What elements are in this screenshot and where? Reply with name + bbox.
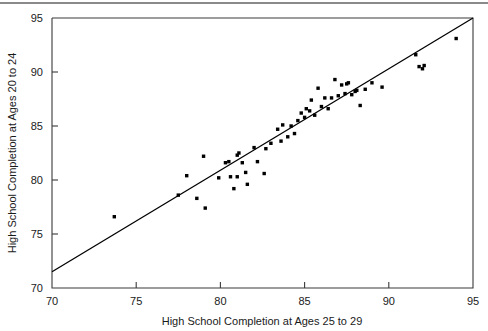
data-point-marker — [195, 197, 198, 200]
data-point-marker — [286, 135, 289, 138]
x-axis-ticks — [136, 282, 389, 288]
data-point-marker — [417, 65, 420, 68]
data-points — [113, 37, 458, 219]
data-point-marker — [347, 81, 350, 84]
data-point-marker — [326, 107, 329, 110]
data-point-marker — [323, 96, 326, 99]
data-point-marker — [204, 206, 207, 209]
x-tick-label: 80 — [214, 295, 226, 307]
y-axis-ticks — [52, 72, 58, 234]
data-point-marker — [333, 78, 336, 81]
data-point-marker — [308, 109, 311, 112]
data-point-marker — [236, 175, 239, 178]
data-point-marker — [350, 93, 353, 96]
data-point-marker — [313, 114, 316, 117]
data-point-marker — [343, 92, 346, 95]
data-point-marker — [316, 87, 319, 90]
data-point-marker — [364, 88, 367, 91]
scatter-plot-canvas: 707580859095 707580859095 High School Co… — [0, 0, 488, 331]
data-point-marker — [113, 215, 116, 218]
plot-frame — [52, 18, 473, 288]
data-point-marker — [340, 83, 343, 86]
data-point-marker — [380, 85, 383, 88]
data-point-marker — [422, 64, 425, 67]
data-point-marker — [454, 37, 457, 40]
y-axis-tick-labels: 707580859095 — [31, 12, 43, 294]
x-tick-label: 75 — [130, 295, 142, 307]
data-point-marker — [281, 123, 284, 126]
regression-line-segment — [52, 18, 473, 272]
data-point-marker — [229, 175, 232, 178]
data-point-marker — [305, 107, 308, 110]
y-tick-label: 70 — [31, 282, 43, 294]
data-point-marker — [358, 104, 361, 107]
data-point-marker — [252, 146, 255, 149]
data-point-marker — [330, 96, 333, 99]
y-axis-label: High School Completion at Ages 20 to 24 — [6, 53, 18, 254]
data-point-marker — [421, 67, 424, 70]
regression-line — [52, 18, 473, 272]
data-point-marker — [370, 81, 373, 84]
x-tick-label: 90 — [383, 295, 395, 307]
data-point-marker — [414, 53, 417, 56]
data-point-marker — [224, 161, 227, 164]
data-point-marker — [241, 161, 244, 164]
scatter-plot-figure: 707580859095 707580859095 High School Co… — [0, 0, 488, 331]
data-point-marker — [237, 151, 240, 154]
data-point-marker — [289, 124, 292, 127]
data-point-marker — [296, 119, 299, 122]
x-tick-label: 70 — [46, 295, 58, 307]
y-tick-label: 80 — [31, 174, 43, 186]
data-point-marker — [232, 187, 235, 190]
data-point-marker — [320, 105, 323, 108]
data-point-marker — [337, 94, 340, 97]
data-point-marker — [269, 142, 272, 145]
x-tick-label: 85 — [298, 295, 310, 307]
x-axis-tick-labels: 707580859095 — [46, 295, 479, 307]
y-tick-label: 85 — [31, 120, 43, 132]
y-tick-label: 95 — [31, 12, 43, 24]
data-point-marker — [256, 160, 259, 163]
data-point-marker — [300, 111, 303, 114]
y-tick-label: 90 — [31, 66, 43, 78]
data-point-marker — [185, 174, 188, 177]
x-axis-label: High School Completion at Ages 25 to 29 — [162, 315, 363, 327]
data-point-marker — [276, 128, 279, 131]
data-point-marker — [310, 98, 313, 101]
data-point-marker — [202, 155, 205, 158]
data-point-marker — [293, 132, 296, 135]
data-point-marker — [227, 160, 230, 163]
data-point-marker — [217, 176, 220, 179]
data-point-marker — [262, 172, 265, 175]
y-tick-label: 75 — [31, 228, 43, 240]
x-tick-label: 95 — [467, 295, 479, 307]
data-point-marker — [264, 147, 267, 150]
data-point-marker — [303, 116, 306, 119]
data-point-marker — [246, 183, 249, 186]
data-point-marker — [355, 89, 358, 92]
data-point-marker — [279, 139, 282, 142]
data-point-marker — [177, 193, 180, 196]
data-point-marker — [244, 171, 247, 174]
